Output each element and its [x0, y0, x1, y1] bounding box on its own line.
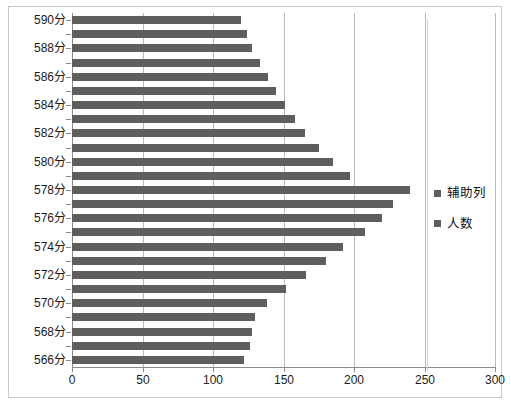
bar-row: [72, 101, 495, 109]
legend-divider: [427, 19, 428, 371]
y-axis-tick: [66, 34, 71, 35]
y-axis-tick: [66, 261, 71, 262]
x-axis-label: 300: [475, 374, 511, 386]
x-axis-label: 200: [334, 374, 374, 386]
y-axis-tick: [66, 77, 71, 78]
y-axis-tick: [66, 317, 71, 318]
bar[interactable]: [72, 285, 286, 293]
y-axis-tick: [66, 360, 71, 361]
bar[interactable]: [72, 87, 276, 95]
bar[interactable]: [72, 129, 305, 137]
y-axis-tick: [66, 247, 71, 248]
plot-area: [72, 13, 495, 367]
y-axis-label: 582分: [34, 127, 66, 139]
bar-row: [72, 172, 495, 180]
bar[interactable]: [72, 342, 250, 350]
bar[interactable]: [72, 101, 285, 109]
bar[interactable]: [72, 73, 268, 81]
x-axis-tick: [284, 367, 285, 372]
x-axis-tick: [213, 367, 214, 372]
bar[interactable]: [72, 186, 410, 194]
y-axis-tick: [66, 148, 71, 149]
y-axis-tick: [66, 232, 71, 233]
legend-item[interactable]: 人数: [434, 218, 498, 231]
y-axis-tick: [66, 190, 71, 191]
x-axis-tick: [495, 367, 496, 372]
bar-row: [72, 200, 495, 208]
x-axis-label: 50: [123, 374, 163, 386]
chart-plot-wrapper: 590分588分586分584分582分580分578分576分574分572分…: [9, 7, 503, 399]
bar[interactable]: [72, 328, 252, 336]
x-axis-ticks: [72, 367, 495, 372]
y-axis-label: 586分: [34, 71, 66, 83]
bar[interactable]: [72, 115, 295, 123]
y-axis-tick: [66, 303, 71, 304]
x-axis-tick: [425, 367, 426, 372]
bar[interactable]: [72, 214, 382, 222]
y-axis-tick: [66, 162, 71, 163]
bar[interactable]: [72, 243, 343, 251]
bar[interactable]: [72, 200, 393, 208]
bar[interactable]: [72, 59, 260, 67]
bar[interactable]: [72, 313, 255, 321]
y-axis-tick: [66, 91, 71, 92]
bar-row: [72, 129, 495, 137]
bar-row: [72, 186, 495, 194]
bar-row: [72, 299, 495, 307]
legend-label: 人数: [447, 218, 473, 231]
y-axis-label: 590分: [34, 14, 66, 26]
bar-row: [72, 115, 495, 123]
bar[interactable]: [72, 30, 247, 38]
y-axis-label: 570分: [34, 297, 66, 309]
bar-row: [72, 342, 495, 350]
y-axis-label: 580分: [34, 156, 66, 168]
y-axis-tick: [66, 48, 71, 49]
bar-row: [72, 144, 495, 152]
y-axis-tick: [66, 20, 71, 21]
y-axis-tick: [66, 332, 71, 333]
bar[interactable]: [72, 44, 252, 52]
bar-row: [72, 228, 495, 236]
y-axis-label: 584分: [34, 99, 66, 111]
legend-item[interactable]: 辅助列: [434, 187, 498, 200]
y-axis-tick: [66, 63, 71, 64]
x-axis-tick: [72, 367, 73, 372]
x-axis-tick: [143, 367, 144, 372]
bar[interactable]: [72, 144, 319, 152]
bar[interactable]: [72, 356, 244, 364]
bar[interactable]: [72, 271, 306, 279]
y-axis-tick: [66, 204, 71, 205]
y-axis-tick: [66, 105, 71, 106]
y-axis-tick: [66, 119, 71, 120]
legend-swatch-icon: [434, 220, 441, 227]
bar[interactable]: [72, 257, 326, 265]
y-axis-tick: [66, 133, 71, 134]
bar-row: [72, 257, 495, 265]
bar-row: [72, 328, 495, 336]
bar[interactable]: [72, 16, 241, 24]
bar[interactable]: [72, 172, 350, 180]
y-axis-tick: [66, 289, 71, 290]
chart-legend: 辅助列人数: [434, 187, 498, 248]
y-axis-labels: 590分588分586分584分582分580分578分576分574分572分…: [9, 13, 66, 367]
bar-row: [72, 30, 495, 38]
y-axis-tick: [66, 218, 71, 219]
y-axis-label: 578分: [34, 184, 66, 196]
x-axis-label: 150: [264, 374, 304, 386]
legend-swatch-icon: [434, 190, 441, 197]
bar[interactable]: [72, 228, 365, 236]
y-axis-label: 572分: [34, 269, 66, 281]
bar-row: [72, 243, 495, 251]
x-axis-tick: [354, 367, 355, 372]
x-axis-label: 100: [193, 374, 233, 386]
y-axis-label: 566分: [34, 354, 66, 366]
x-axis-label: 0: [52, 374, 92, 386]
y-axis-tick: [66, 176, 71, 177]
bar[interactable]: [72, 299, 267, 307]
bar-row: [72, 313, 495, 321]
legend-label: 辅助列: [447, 187, 486, 200]
bar-row: [72, 271, 495, 279]
bar-row: [72, 214, 495, 222]
bar-row: [72, 285, 495, 293]
bar[interactable]: [72, 158, 333, 166]
